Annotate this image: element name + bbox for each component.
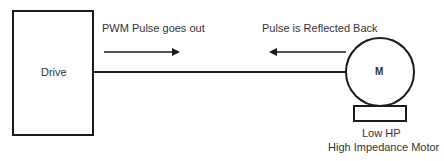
motor-base (354, 106, 406, 121)
arrow-left-icon (269, 48, 346, 56)
motor-label: M (375, 66, 383, 77)
motor-caption-line2: High Impedance Motor (328, 141, 439, 153)
reflected-pulse-label: Pulse is Reflected Back (262, 22, 378, 34)
drive-label: Drive (41, 66, 67, 78)
arrow-right-icon (104, 48, 180, 56)
outgoing-pulse-label: PWM Pulse goes out (102, 22, 205, 34)
motor-caption-line1: Low HP (362, 127, 401, 139)
